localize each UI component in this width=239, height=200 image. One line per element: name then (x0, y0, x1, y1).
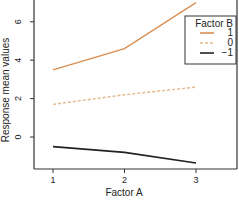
series-lines (53, 3, 196, 163)
x-axis-ticks: 123 (50, 169, 198, 185)
x-axis-label: Factor A (105, 187, 143, 198)
y-tick-label: 4 (13, 58, 23, 63)
y-tick-label: 0 (13, 134, 23, 139)
series-line (53, 147, 196, 163)
series-line (53, 87, 196, 104)
y-axis-ticks: 0246 (13, 19, 34, 139)
y-axis-label: Response mean values (0, 38, 11, 143)
legend: Factor B 10−1 (185, 16, 236, 64)
x-tick-label: 2 (122, 175, 127, 185)
x-tick-label: 3 (193, 175, 198, 185)
interaction-plot: 0246 123 Response mean values Factor A F… (0, 0, 239, 200)
y-tick-label: 2 (13, 96, 23, 101)
y-tick-label: 6 (13, 19, 23, 24)
legend-label: −1 (222, 47, 234, 58)
x-tick-label: 1 (50, 175, 55, 185)
series-line (53, 3, 196, 70)
